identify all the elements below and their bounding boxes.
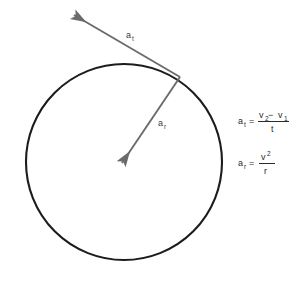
eq1-lhs-var: a — [238, 116, 243, 126]
tangential-acceleration-equation: a t = v 2 − v 1 t — [238, 110, 289, 134]
eq2-numerator-exponent: 2 — [267, 150, 271, 157]
eq2-equals-sign: = — [249, 158, 254, 168]
tangential-label-subscript: t — [132, 35, 134, 42]
eq1-minus-sign: − — [268, 110, 273, 120]
eq2-denominator: r — [264, 166, 267, 176]
eq2-lhs-subscript: r — [244, 163, 247, 170]
eq1-equals-sign: = — [249, 116, 254, 126]
eq1-numerator-sub-second: 1 — [284, 115, 288, 122]
radial-label-base: a — [158, 118, 163, 128]
eq1-denominator: t — [271, 124, 274, 134]
eq1-numerator-v-first: v — [259, 110, 264, 120]
eq1-lhs-subscript: t — [244, 121, 246, 128]
diagram-canvas: a t a r a t = v 2 − v 1 t a r = v 2 — [0, 0, 304, 284]
radial-acceleration-equation: a r = v 2 r — [238, 150, 275, 177]
tangential-label-base: a — [126, 30, 131, 40]
physics-diagram: a t a r a t = v 2 − v 1 t a r = v 2 — [0, 0, 304, 284]
eq2-lhs-var: a — [238, 158, 243, 168]
radial-vector-label: a r — [158, 118, 167, 130]
tangential-vector-label: a t — [126, 30, 134, 42]
eq2-numerator-base: v — [261, 152, 266, 162]
radial-acceleration-vector — [122, 77, 180, 163]
eq1-numerator-v-second: v — [278, 110, 283, 120]
circular-path — [26, 64, 222, 260]
tangential-acceleration-vector — [74, 15, 180, 77]
radial-label-subscript: r — [164, 123, 167, 130]
